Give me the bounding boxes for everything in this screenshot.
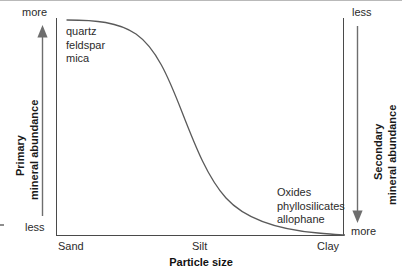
left-axis-top-cap: more bbox=[22, 6, 47, 18]
left-axis-bottom-cap: less bbox=[25, 221, 45, 233]
right-axis-arrow-down bbox=[349, 24, 366, 224]
top-rule bbox=[0, 0, 402, 1]
annotation-line: mica bbox=[66, 52, 105, 66]
right-axis-title-line1: Secondary bbox=[372, 124, 384, 180]
edge-artifact bbox=[0, 224, 4, 226]
right-axis-top-cap: less bbox=[352, 6, 372, 18]
left-axis-title-line2: mineral abundance bbox=[28, 100, 40, 200]
annotation-line: allophane bbox=[277, 213, 345, 227]
x-axis-title: Particle size bbox=[0, 256, 402, 268]
right-axis-bottom-cap: more bbox=[351, 225, 376, 237]
x-tick-clay: Clay bbox=[317, 240, 339, 252]
right-axis-title-line2: mineral abundance bbox=[386, 105, 398, 205]
mineral-abundance-figure: quartz feldspar mica Oxides phyllosilica… bbox=[0, 0, 402, 273]
annotation-secondary-minerals: Oxides phyllosilicates allophane bbox=[277, 186, 345, 227]
annotation-primary-minerals: quartz feldspar mica bbox=[66, 25, 105, 66]
x-tick-silt: Silt bbox=[192, 240, 207, 252]
annotation-line: feldspar bbox=[66, 39, 105, 53]
x-tick-sand: Sand bbox=[58, 240, 84, 252]
left-axis-title-line1: Primary bbox=[14, 135, 26, 176]
annotation-line: phyllosilicates bbox=[277, 200, 345, 214]
annotation-line: Oxides bbox=[277, 186, 345, 200]
annotation-line: quartz bbox=[66, 25, 105, 39]
